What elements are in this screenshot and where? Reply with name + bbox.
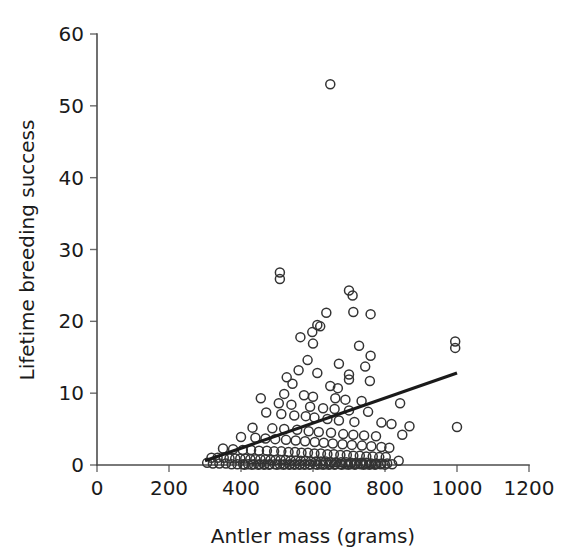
data-point: [277, 410, 286, 419]
y-tick-label: 0: [71, 453, 84, 477]
x-axis-label: Antler mass (grams): [211, 524, 415, 548]
data-point: [355, 341, 364, 350]
data-point: [327, 428, 336, 437]
y-tick-label: 60: [59, 22, 84, 46]
y-axis-ticks: 0102030405060: [59, 22, 97, 477]
data-point: [304, 427, 313, 436]
plot-canvas: 0102030405060 020040060080010001200 Antl…: [0, 0, 575, 559]
data-point: [280, 389, 289, 398]
data-point: [306, 402, 315, 411]
data-point: [350, 417, 359, 426]
x-tick-label: 200: [150, 476, 188, 500]
data-point: [248, 423, 257, 432]
data-point: [366, 351, 375, 360]
data-point: [338, 440, 347, 449]
data-point: [262, 408, 271, 417]
data-point: [310, 438, 319, 447]
data-point: [314, 427, 323, 436]
data-point: [364, 407, 373, 416]
data-point: [331, 394, 340, 403]
data-point: [366, 310, 375, 319]
data-point: [330, 404, 339, 413]
x-axis-ticks: 020040060080010001200: [91, 465, 555, 500]
data-point: [361, 362, 370, 371]
data-point: [274, 399, 283, 408]
y-tick-label: 50: [59, 94, 84, 118]
x-tick-label: 0: [91, 476, 104, 500]
data-point: [357, 441, 366, 450]
data-point: [453, 422, 462, 431]
data-point: [268, 424, 277, 433]
data-point: [322, 308, 331, 317]
data-point: [349, 308, 358, 317]
data-point: [237, 432, 246, 441]
data-point: [451, 343, 460, 352]
data-point: [288, 379, 297, 388]
data-point: [347, 440, 356, 449]
data-points-layer: [203, 80, 462, 469]
x-tick-label: 600: [294, 476, 332, 500]
data-point: [316, 322, 325, 331]
data-point: [301, 412, 310, 421]
data-point: [287, 400, 296, 409]
y-tick-label: 10: [59, 381, 84, 405]
x-tick-label: 1000: [432, 476, 483, 500]
data-point: [308, 328, 317, 337]
data-point: [300, 391, 309, 400]
data-point: [303, 356, 312, 365]
data-point: [256, 394, 265, 403]
data-point: [349, 430, 358, 439]
data-point: [294, 366, 303, 375]
data-point: [360, 431, 369, 440]
x-tick-label: 400: [222, 476, 260, 500]
y-axis-label: Lifetime breeding success: [15, 120, 39, 381]
data-point: [319, 404, 328, 413]
data-point: [313, 369, 322, 378]
data-point: [275, 274, 284, 283]
data-point: [319, 438, 328, 447]
data-point: [341, 395, 350, 404]
data-point: [405, 422, 414, 431]
data-point: [398, 430, 407, 439]
data-point: [339, 430, 348, 439]
data-point: [301, 437, 310, 446]
data-point: [296, 333, 305, 342]
x-tick-label: 1200: [504, 476, 555, 500]
data-point: [326, 80, 335, 89]
x-tick-label: 800: [366, 476, 404, 500]
data-point: [290, 411, 299, 420]
data-point: [372, 432, 381, 441]
y-tick-label: 40: [59, 166, 84, 190]
data-point: [328, 439, 337, 448]
data-point: [309, 339, 318, 348]
data-point: [219, 444, 228, 453]
scatter-plot-figure: 0102030405060 020040060080010001200 Antl…: [0, 0, 575, 559]
data-point: [291, 436, 300, 445]
y-tick-label: 30: [59, 238, 84, 262]
data-point: [367, 442, 376, 451]
y-tick-label: 20: [59, 309, 84, 333]
data-point: [282, 435, 291, 444]
data-point: [396, 399, 405, 408]
data-point: [365, 376, 374, 385]
data-point: [334, 359, 343, 368]
data-point: [309, 392, 318, 401]
data-point: [377, 418, 386, 427]
data-point: [387, 420, 396, 429]
data-point: [334, 416, 343, 425]
